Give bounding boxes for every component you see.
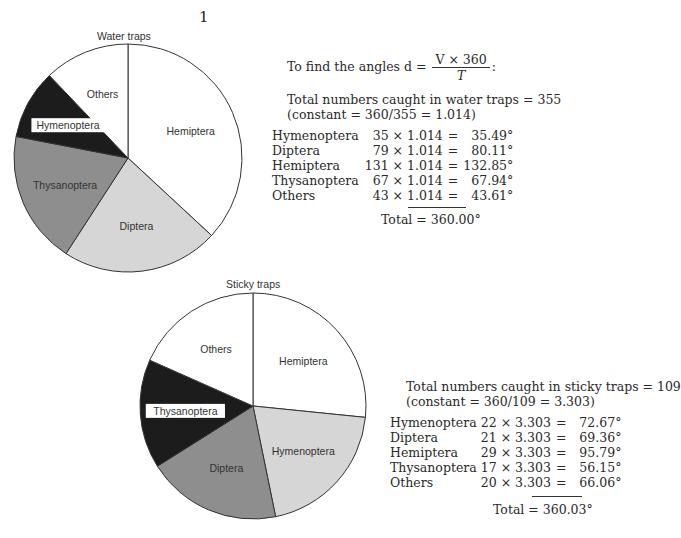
table-row: Hemiptera29 × 3.303=95.79°: [390, 445, 621, 460]
row-val: 56.15°: [571, 460, 621, 475]
row-eq: =: [551, 445, 571, 460]
sticky-total: Total = 360.03°: [493, 502, 593, 517]
row-expr: 20 × 3.303: [477, 475, 551, 490]
row-val: 95.79°: [571, 445, 621, 460]
sticky-total-line: Total numbers caught in sticky traps = 1…: [406, 379, 681, 394]
row-expr: 22 × 3.303: [477, 415, 551, 430]
row-expr: 17 × 3.303: [477, 460, 551, 475]
row-val: 72.67°: [571, 415, 621, 430]
slice-label-diptera: Diptera: [209, 462, 243, 474]
svg-text:Others: Others: [200, 343, 232, 355]
svg-text:Thysanoptera: Thysanoptera: [153, 405, 217, 417]
row-name: Others: [390, 475, 477, 490]
slice-label-hemiptera: Hemiptera: [279, 355, 328, 367]
row-expr: 21 × 3.303: [477, 430, 551, 445]
row-name: Hemiptera: [390, 445, 477, 460]
row-val: 66.06°: [571, 475, 621, 490]
svg-text:Hemiptera: Hemiptera: [279, 355, 328, 367]
row-name: Thysanoptera: [390, 460, 477, 475]
slice-label-others: Others: [200, 343, 232, 355]
slice-label-hymenoptera: Hymenoptera: [272, 445, 335, 457]
table-row: Diptera21 × 3.303=69.36°: [390, 430, 621, 445]
row-eq: =: [551, 460, 571, 475]
sticky-calc-table: Hymenoptera22 × 3.303=72.67° Diptera21 ×…: [390, 415, 621, 490]
row-eq: =: [551, 415, 571, 430]
sticky-sum-rule: [532, 496, 582, 497]
svg-text:Diptera: Diptera: [209, 462, 243, 474]
row-name: Diptera: [390, 430, 477, 445]
row-eq: =: [551, 430, 571, 445]
row-expr: 29 × 3.303: [477, 445, 551, 460]
row-val: 69.36°: [571, 430, 621, 445]
sticky-constant-line: (constant = 360/109 = 3.303): [406, 394, 595, 409]
table-row: Hymenoptera22 × 3.303=72.67°: [390, 415, 621, 430]
svg-text:Hymenoptera: Hymenoptera: [272, 445, 335, 457]
table-row: Others20 × 3.303=66.06°: [390, 475, 621, 490]
slice-label-thysanoptera: Thysanoptera: [146, 404, 225, 418]
row-name: Hymenoptera: [390, 415, 477, 430]
table-row: Thysanoptera17 × 3.303=56.15°: [390, 460, 621, 475]
row-eq: =: [551, 475, 571, 490]
